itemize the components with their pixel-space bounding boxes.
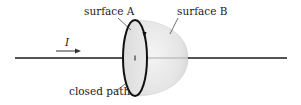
closed-path-label: closed path: [69, 86, 130, 97]
current-arrow-head-icon: [75, 49, 81, 54]
surface-b-label: surface B: [177, 6, 227, 17]
current-label: I: [65, 37, 69, 48]
surface-a-label: surface A: [84, 6, 134, 17]
ampere-law-surfaces-diagram: [0, 0, 301, 105]
